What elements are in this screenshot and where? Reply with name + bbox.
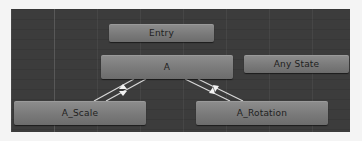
state-label: Entry xyxy=(149,28,174,38)
state-label: Any State xyxy=(274,59,320,69)
state-a-rotation[interactable]: A_Rotation xyxy=(196,101,328,125)
state-label: A_Rotation xyxy=(237,108,287,118)
state-a[interactable]: A xyxy=(101,55,233,79)
state-label: A xyxy=(164,62,170,72)
state-entry[interactable]: Entry xyxy=(109,24,214,42)
state-a-scale[interactable]: A_Scale xyxy=(14,101,146,125)
state-label: A_Scale xyxy=(62,108,98,118)
state-any-state[interactable]: Any State xyxy=(244,55,349,73)
